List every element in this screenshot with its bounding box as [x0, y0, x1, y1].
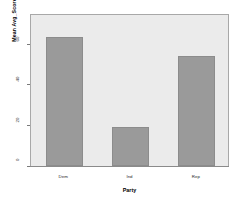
- y-tick-label: 0: [14, 159, 22, 174]
- plot-inner: [31, 15, 228, 166]
- plot-area: [30, 14, 229, 167]
- bar: [112, 127, 149, 166]
- bar-chart-figure: Mean Avg_Score 6040200 DemIndRep Party: [0, 0, 243, 208]
- x-tick-label: Dem: [30, 173, 96, 181]
- bar: [178, 56, 215, 166]
- x-axis-title: Party: [30, 185, 229, 195]
- x-axis-line: [30, 166, 229, 167]
- x-tick-label: Rep: [163, 173, 229, 181]
- y-axis-title: Mean Avg_Score: [8, 0, 20, 66]
- y-tick-label: 40: [14, 77, 22, 92]
- y-tick-label: 20: [14, 118, 22, 133]
- y-tick-label: 60: [14, 36, 22, 51]
- x-tick-label: Ind: [96, 173, 162, 181]
- bar: [46, 37, 83, 166]
